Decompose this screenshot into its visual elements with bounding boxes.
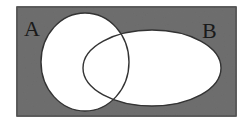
- venn-diagram: A B: [0, 0, 252, 129]
- set-a-label: A: [24, 16, 40, 41]
- set-b-label: B: [202, 18, 217, 43]
